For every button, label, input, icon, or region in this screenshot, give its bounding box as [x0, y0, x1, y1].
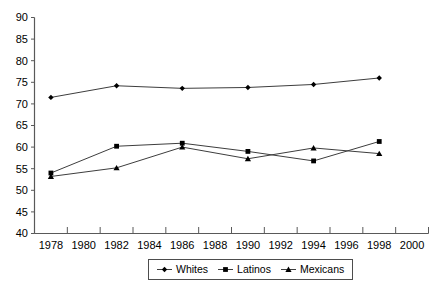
y-tick-label: 45	[16, 206, 28, 218]
y-tick-label: 90	[16, 11, 28, 23]
x-tick-label: 1986	[170, 239, 194, 251]
x-tick-label: 1978	[39, 239, 63, 251]
x-tick-label: 1996	[334, 239, 358, 251]
series-line-latinos	[51, 141, 379, 173]
x-tick-label: 1992	[269, 239, 293, 251]
series-line-whites	[51, 78, 379, 97]
y-tick-label: 70	[16, 98, 28, 110]
data-point-whites	[48, 95, 53, 100]
y-tick-label: 40	[16, 227, 28, 239]
x-tick-label: 1984	[137, 239, 161, 251]
legend-item-latinos: Latinos	[218, 264, 271, 275]
y-tick-label: 85	[16, 33, 28, 45]
x-tick-label: 1994	[301, 239, 325, 251]
x-tick-label: 1988	[203, 239, 227, 251]
y-tick-label: 80	[16, 55, 28, 67]
y-tick-label: 50	[16, 184, 28, 196]
data-point-whites	[114, 83, 119, 88]
legend-label: Mexicans	[300, 264, 344, 275]
data-point-latinos	[377, 139, 382, 144]
data-point-latinos	[114, 144, 119, 149]
legend-label: Whites	[176, 264, 208, 275]
y-tick-label: 65	[16, 119, 28, 131]
line-plot: 4045505560657075808590197819801982198419…	[0, 0, 441, 256]
y-tick-label: 55	[16, 163, 28, 175]
triangle-icon	[281, 265, 296, 274]
diamond-icon	[157, 265, 172, 274]
legend-item-whites: Whites	[157, 264, 208, 275]
legend-item-mexicans: Mexicans	[281, 264, 344, 275]
x-tick-label: 1990	[236, 239, 260, 251]
data-point-whites	[311, 82, 316, 87]
legend-label: Latinos	[237, 264, 271, 275]
x-tick-label: 1980	[72, 239, 96, 251]
data-point-whites	[180, 86, 185, 91]
series-line-mexicans	[51, 147, 379, 176]
chart-figure: 4045505560657075808590197819801982198419…	[0, 0, 441, 290]
data-point-whites	[377, 75, 382, 80]
data-point-latinos	[311, 159, 316, 164]
y-tick-label: 60	[16, 141, 28, 153]
data-point-whites	[245, 85, 250, 90]
x-tick-label: 1998	[367, 239, 391, 251]
x-tick-label: 2000	[400, 239, 424, 251]
square-icon	[218, 265, 233, 274]
y-tick-label: 75	[16, 76, 28, 88]
legend: WhitesLatinosMexicans	[148, 259, 353, 280]
x-tick-label: 1982	[104, 239, 128, 251]
data-point-latinos	[246, 149, 251, 154]
